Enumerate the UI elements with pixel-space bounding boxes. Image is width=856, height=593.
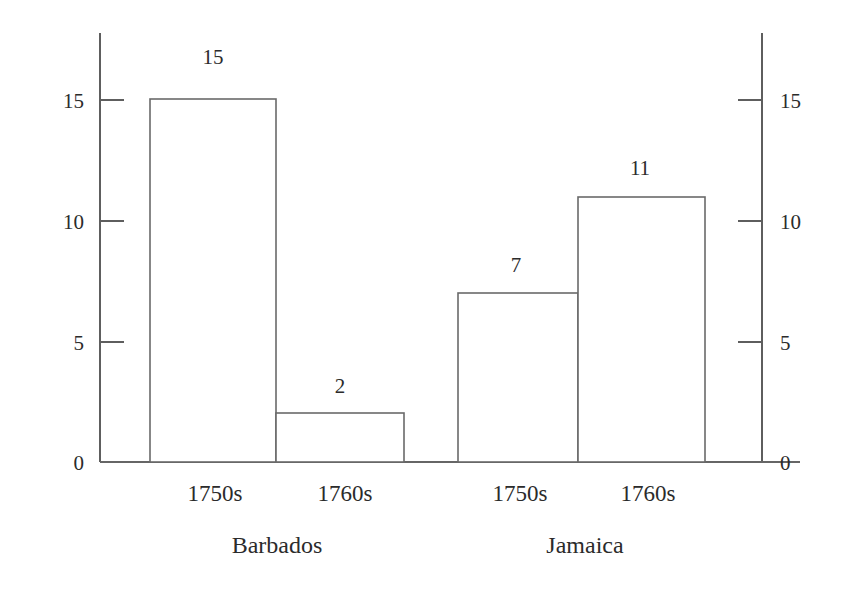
right-tick-label-15: 15: [780, 89, 801, 113]
left-tick-label-0: 0: [74, 451, 85, 475]
axis-left: [100, 33, 124, 462]
period-label-barbados-1760s: 1760s: [318, 481, 373, 506]
value-label-barbados-1760s: 2: [335, 374, 346, 398]
right-tick-label-10: 10: [780, 210, 801, 234]
bar-barbados-1750s[interactable]: [150, 99, 276, 462]
bar-group-barbados: 15 2 1750s 1760s Barbados: [150, 45, 404, 558]
bar-jamaica-1760s[interactable]: [578, 197, 705, 462]
value-label-jamaica-1760s: 11: [630, 156, 650, 180]
group-label-jamaica: Jamaica: [546, 532, 624, 558]
period-label-jamaica-1750s: 1750s: [493, 481, 548, 506]
bar-jamaica-1750s[interactable]: [458, 293, 578, 462]
left-tick-label-15: 15: [63, 89, 84, 113]
bar-chart-figure: 15 10 5 0 15 10 5 0 15 2 1750s 1760s Bar…: [0, 0, 856, 593]
group-label-barbados: Barbados: [232, 532, 323, 558]
value-label-barbados-1750s: 15: [203, 45, 224, 69]
right-tick-label-0: 0: [780, 451, 791, 475]
chart-canvas: 15 10 5 0 15 10 5 0 15 2 1750s 1760s Bar…: [0, 0, 856, 593]
axis-right: [738, 33, 762, 462]
bar-group-jamaica: 7 11 1750s 1760s Jamaica: [458, 156, 705, 558]
period-label-barbados-1750s: 1750s: [188, 481, 243, 506]
right-tick-label-5: 5: [780, 331, 791, 355]
value-label-jamaica-1750s: 7: [511, 253, 522, 277]
left-tick-label-5: 5: [74, 331, 85, 355]
bar-barbados-1760s[interactable]: [276, 413, 404, 462]
period-label-jamaica-1760s: 1760s: [621, 481, 676, 506]
left-tick-label-10: 10: [63, 210, 84, 234]
